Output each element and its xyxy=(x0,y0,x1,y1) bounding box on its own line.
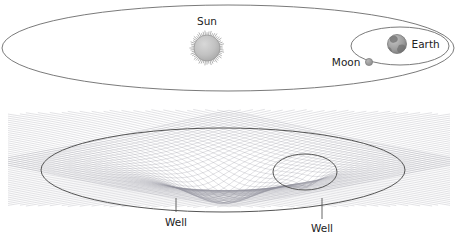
earth-label: Earth xyxy=(412,38,440,50)
sun-well-label: Well xyxy=(165,216,187,228)
figure-canvas: Sun Earth Moon Well Well xyxy=(0,0,456,240)
moon-disc xyxy=(365,58,372,65)
spacetime-mesh xyxy=(8,109,450,207)
sun-body-group xyxy=(190,31,224,65)
orbit-layer xyxy=(2,5,454,91)
earth-body-group xyxy=(387,35,407,55)
earth-well-label: Well xyxy=(311,222,333,234)
sun-disc xyxy=(194,35,220,61)
astronomy-figure-svg: Sun Earth Moon Well Well xyxy=(0,0,456,240)
sun-label: Sun xyxy=(197,15,217,27)
earth-orbit-ellipse xyxy=(2,5,454,91)
moon-label: Moon xyxy=(332,56,361,68)
